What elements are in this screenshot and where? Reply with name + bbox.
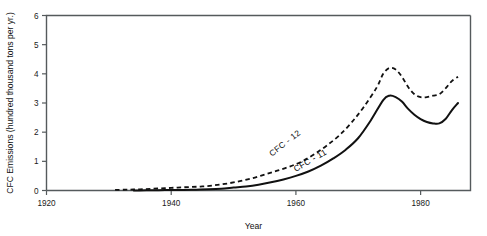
y-tick-label: 1: [34, 157, 39, 166]
series-line-cfc-12: [115, 68, 458, 190]
series-label-cfc-11: CFC - 11: [292, 147, 329, 174]
y-tick-label: 3: [34, 99, 39, 108]
y-axis-ticks: 0123456: [34, 12, 47, 196]
chart-canvas: 0123456 1920194019601980 CFC - 12CFC - 1…: [0, 0, 487, 236]
y-axis-title: CFC Emissions (hundred thousand tons per…: [5, 12, 15, 194]
series-layer: [115, 68, 458, 191]
x-tick-label: 1980: [412, 199, 431, 208]
axis-bottom-right: [47, 16, 471, 191]
y-tick-label: 5: [34, 41, 39, 50]
x-axis-ticks: 1920194019601980: [37, 191, 430, 208]
x-tick-label: 1960: [287, 199, 306, 208]
y-tick-label: 2: [34, 128, 39, 137]
x-axis-title: Year: [245, 221, 263, 231]
series-label-cfc-12: CFC - 12: [267, 128, 302, 159]
axis-left-top: [47, 16, 471, 191]
y-tick-label: 0: [34, 187, 39, 196]
y-tick-label: 4: [34, 70, 39, 79]
series-line-cfc-11: [134, 96, 458, 191]
plot-frame: [47, 16, 471, 191]
x-tick-label: 1920: [37, 199, 56, 208]
y-tick-label: 6: [34, 12, 39, 21]
x-tick-label: 1940: [162, 199, 181, 208]
cfc-emissions-chart: 0123456 1920194019601980 CFC - 12CFC - 1…: [0, 0, 487, 236]
